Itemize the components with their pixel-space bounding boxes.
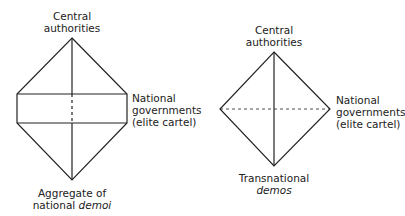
label-line: authorities <box>32 22 112 34</box>
left-bottom-label: Aggregate of national demoi <box>22 187 122 211</box>
label-line: national demoi <box>22 199 122 211</box>
label-line: National <box>132 92 201 104</box>
label-italic-text: demoi <box>79 199 112 211</box>
label-line: governments <box>336 106 405 118</box>
label-italic-text: demos <box>256 184 291 196</box>
label-line: Aggregate of <box>22 187 122 199</box>
label-line: (elite cartel) <box>132 116 201 128</box>
label-line: demos <box>224 184 324 196</box>
label-line: Transnational <box>224 172 324 184</box>
label-line: Central <box>234 24 314 36</box>
label-line: authorities <box>234 36 314 48</box>
label-line: Central <box>32 10 112 22</box>
label-line: governments <box>132 104 201 116</box>
left-top-label: Central authorities <box>32 10 112 34</box>
label-line: National <box>336 94 405 106</box>
right-diagram-shape <box>220 52 330 166</box>
right-top-label: Central authorities <box>234 24 314 48</box>
label-line: (elite cartel) <box>336 118 405 130</box>
label-text: national <box>33 199 79 211</box>
right-bottom-label: Transnational demos <box>224 172 324 196</box>
right-side-label: National governments (elite cartel) <box>336 94 405 130</box>
left-side-label: National governments (elite cartel) <box>132 92 201 128</box>
left-diagram-shape <box>17 38 127 180</box>
